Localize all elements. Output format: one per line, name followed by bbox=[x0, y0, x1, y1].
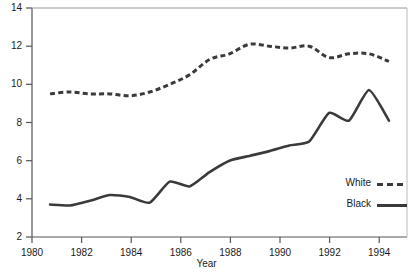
legend-item-white: White bbox=[333, 176, 409, 192]
chart-legend: White Black bbox=[333, 176, 409, 217]
legend-swatch-dashed-icon bbox=[377, 183, 407, 186]
x-tick-label-1980: 1980 bbox=[12, 247, 52, 258]
x-axis-title: Year bbox=[0, 258, 413, 269]
x-tick-label-1986: 1986 bbox=[161, 247, 201, 258]
y-tick-label-2: 2 bbox=[0, 231, 22, 242]
y-tick-label-10: 10 bbox=[0, 78, 22, 89]
legend-swatch-solid-icon bbox=[377, 204, 407, 207]
y-tick-label-4: 4 bbox=[0, 193, 22, 204]
y-tick-label-6: 6 bbox=[0, 155, 22, 166]
line-chart: 14 12 10 8 6 4 2 1980 1982 1984 1986 198… bbox=[0, 0, 413, 278]
x-tick-label-1992: 1992 bbox=[310, 247, 350, 258]
y-tick-label-12: 12 bbox=[0, 40, 22, 51]
chart-plot-area bbox=[0, 0, 413, 278]
x-axis-ticks bbox=[32, 237, 379, 243]
x-tick-label-1984: 1984 bbox=[111, 247, 151, 258]
series-line-white bbox=[50, 44, 389, 96]
x-tick-label-1982: 1982 bbox=[62, 247, 102, 258]
y-tick-label-8: 8 bbox=[0, 117, 22, 128]
x-tick-label-1988: 1988 bbox=[210, 247, 250, 258]
y-tick-label-14: 14 bbox=[0, 2, 22, 13]
legend-label-black: Black bbox=[333, 198, 371, 209]
legend-label-white: White bbox=[333, 177, 371, 188]
x-tick-label-1994: 1994 bbox=[359, 247, 399, 258]
x-tick-label-1990: 1990 bbox=[260, 247, 300, 258]
y-axis-ticks bbox=[26, 8, 32, 237]
legend-item-black: Black bbox=[333, 197, 409, 213]
